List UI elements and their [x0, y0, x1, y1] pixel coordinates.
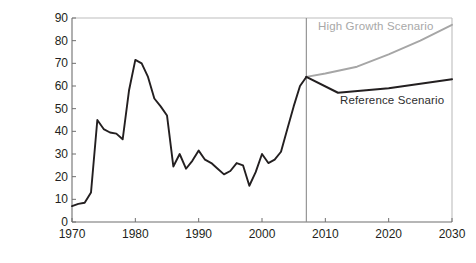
historical-price-line — [72, 60, 306, 206]
x-tick-label: 1980 — [105, 228, 165, 240]
y-axis-ticks: 0102030405060708090 — [40, 0, 68, 263]
x-axis-ticks: 1970198019902000201020202030 — [0, 228, 476, 248]
x-tick-label: 2030 — [422, 228, 476, 240]
high-growth-scenario-label: High Growth Scenario — [318, 20, 434, 32]
y-tick-label: 80 — [44, 35, 68, 47]
high-growth-scenario-line — [306, 25, 452, 77]
x-tick-label: 2020 — [359, 228, 419, 240]
y-tick-label: 70 — [44, 57, 68, 69]
x-tick-label: 2010 — [295, 228, 355, 240]
y-tick-label: 40 — [44, 125, 68, 137]
x-tick-label: 2000 — [232, 228, 292, 240]
plot-area — [0, 0, 476, 263]
y-tick-label: 20 — [44, 171, 68, 183]
y-tick-label: 30 — [44, 148, 68, 160]
reference-scenario-line — [306, 77, 452, 93]
y-tick-label: 10 — [44, 193, 68, 205]
y-tick-label: 60 — [44, 80, 68, 92]
oil-price-chart: dollars per barrel (2006) 01020304050607… — [0, 0, 476, 263]
y-tick-label: 90 — [44, 12, 68, 24]
x-tick-label: 1970 — [42, 228, 102, 240]
y-tick-label: 50 — [44, 103, 68, 115]
reference-scenario-label: Reference Scenario — [340, 94, 444, 106]
x-tick-label: 1990 — [169, 228, 229, 240]
y-axis-label: dollars per barrel (2006) — [2, 0, 26, 24]
